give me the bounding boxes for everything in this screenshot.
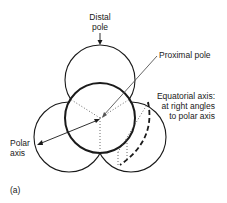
distal-pole-label: Distal pole xyxy=(80,12,120,32)
panel-label: (a) xyxy=(10,185,20,195)
polar-axis-arrowhead-outer xyxy=(37,140,43,145)
distal-pole-arrowhead xyxy=(98,40,103,45)
proximal-pole-label: Proximal pole xyxy=(159,50,211,60)
polar-axis-label: Polar axis xyxy=(10,138,30,158)
equatorial-axis-label: Equatorial axis: at right angles to pola… xyxy=(146,91,215,121)
